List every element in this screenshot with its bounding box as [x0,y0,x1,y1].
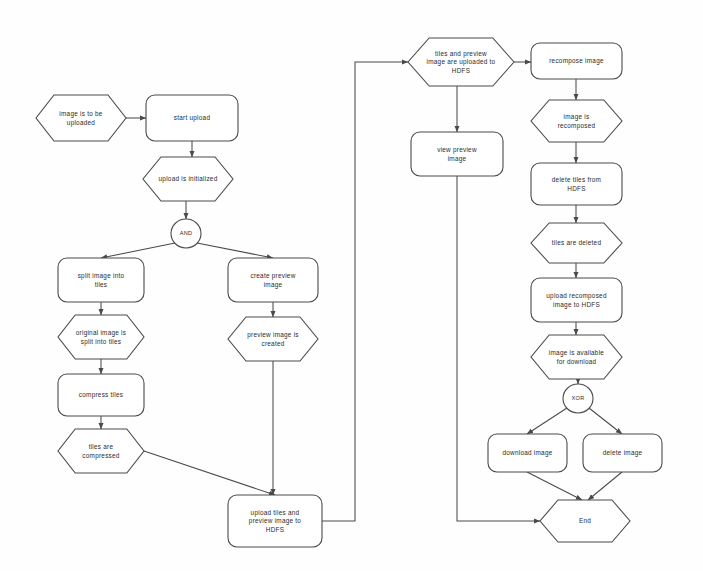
node-delete-image[interactable]: delete image [583,434,662,472]
node-upload-is-initialized[interactable]: upload is initialized [143,157,233,201]
node-label: compress tiles [79,391,123,399]
node-end[interactable]: End [540,500,630,542]
edge-download-image-to-end [527,472,582,500]
node-label: split into tiles [81,338,122,346]
node-label: image are uploaded to [427,58,496,66]
node-start-upload[interactable]: start upload [146,95,238,141]
node-download-image[interactable]: download image [488,434,567,472]
node-compress-tiles[interactable]: compress tiles [58,374,144,416]
edge-xor-gateway-to-delete-image [589,408,622,434]
node-layer: image is to beuploadedstart uploadupload… [36,38,662,547]
node-label: preview image to [249,517,302,525]
edge-upload-tiles-preview-to-tiles-preview-uploaded [322,62,408,521]
node-label: uploaded [67,119,95,127]
node-label: XOR [571,395,584,401]
node-image-is-recomposed[interactable]: image isrecomposed [531,100,622,142]
node-delete-tiles-from-hdfs[interactable]: delete tiles fromHDFS [531,163,622,205]
edge-delete-image-to-end [588,472,622,500]
node-preview-image-created[interactable]: preview image iscreated [228,317,318,361]
flowchart-svg: image is to beuploadedstart uploadupload… [0,0,703,571]
node-view-preview-image[interactable]: view previewimage [411,132,503,176]
node-label: download image [502,449,552,457]
node-label: delete tiles from [552,176,601,183]
node-label: HDFS [266,526,284,533]
node-tiles-are-deleted[interactable]: tiles are deleted [531,223,622,263]
node-label: image is [564,113,590,121]
edge-and-gateway-to-split-image-into-tiles [101,243,175,258]
edge-and-gateway-to-create-preview-image [197,243,273,258]
node-label: HDFS [452,67,470,74]
node-label: End [579,517,591,524]
node-label: upload is initialized [159,175,218,183]
edge-tiles-are-compressed-to-upload-tiles-preview [144,451,275,495]
node-label: upload tiles and [251,509,300,517]
node-label: create preview [250,272,295,280]
flowchart-canvas: image is to beuploadedstart uploadupload… [0,0,703,571]
node-label: image [264,281,283,289]
node-label: tiles are deleted [552,239,602,246]
node-label: tiles and preview [435,50,487,58]
node-create-preview-image[interactable]: create previewimage [228,258,318,302]
node-label: for download [557,358,597,365]
node-recompose-image[interactable]: recompose image [531,43,622,79]
node-label: preview image is [247,331,299,339]
node-upload-recomposed-image[interactable]: upload recomposedimage to HDFS [531,278,622,322]
node-image-available-download[interactable]: image is availablefor download [531,335,622,379]
node-label: compressed [82,452,120,460]
node-label: created [261,340,284,347]
node-label: image is available [549,349,604,357]
node-label: AND [180,230,193,236]
node-label: recomposed [558,122,596,130]
node-label: image is to be [59,110,102,118]
node-label: upload recomposed [546,292,607,300]
node-label: image [448,155,467,163]
node-label: view preview [437,146,477,154]
node-label: tiles are [89,443,114,450]
node-and-gateway[interactable]: AND [171,219,201,248]
node-tiles-are-compressed[interactable]: tiles arecompressed [58,429,144,473]
node-original-image-is-split[interactable]: original image issplit into tiles [58,315,144,359]
node-split-image-into-tiles[interactable]: split image intotiles [58,258,144,302]
node-label: delete image [603,449,643,457]
node-label: recompose image [549,57,604,65]
node-label: tiles [95,281,108,288]
node-xor-gateway[interactable]: XOR [563,384,593,413]
edge-xor-gateway-to-download-image [527,408,567,434]
node-label: HDFS [567,185,585,192]
node-image-is-to-be-uploaded[interactable]: image is to beuploaded [36,95,126,141]
node-label: split image into [78,272,125,280]
node-tiles-preview-uploaded[interactable]: tiles and previewimage are uploaded toHD… [408,38,514,86]
node-label: original image is [76,329,126,337]
node-upload-tiles-preview[interactable]: upload tiles andpreview image toHDFS [228,495,322,547]
node-label: start upload [174,114,211,122]
node-label: image to HDFS [553,301,600,309]
